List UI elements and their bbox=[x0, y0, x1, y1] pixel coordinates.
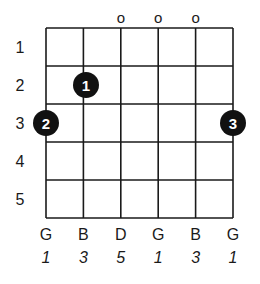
fingering-number: 3 bbox=[191, 249, 200, 266]
string-names: G B D G B G bbox=[40, 226, 239, 243]
chord-diagram: o o o 1 2 3 4 5 1 2 3 G B D G B G 1 bbox=[0, 0, 260, 284]
svg-text:1: 1 bbox=[82, 77, 90, 94]
finger-dot: 2 bbox=[33, 110, 59, 136]
string-name: G bbox=[40, 226, 52, 243]
string-name: D bbox=[115, 226, 127, 243]
finger-dot: 1 bbox=[73, 72, 99, 98]
svg-text:3: 3 bbox=[229, 115, 237, 132]
fingering-number: 5 bbox=[116, 249, 125, 266]
fret-number: 3 bbox=[16, 115, 25, 132]
open-string-marker: o bbox=[191, 9, 199, 26]
string-name: B bbox=[190, 226, 201, 243]
fret-numbers: 1 2 3 4 5 bbox=[16, 39, 25, 208]
fret-number: 5 bbox=[16, 191, 25, 208]
fret-number: 1 bbox=[16, 39, 25, 56]
fret-number: 2 bbox=[16, 77, 25, 94]
fingering-numbers: 1 3 5 1 3 1 bbox=[42, 249, 238, 266]
string-name: G bbox=[152, 226, 164, 243]
string-name: G bbox=[227, 226, 239, 243]
svg-text:2: 2 bbox=[42, 115, 50, 132]
open-string-markers: o o o bbox=[117, 9, 200, 26]
fretboard-grid bbox=[46, 28, 233, 218]
fingering-number: 1 bbox=[154, 249, 163, 266]
fret-number: 4 bbox=[16, 153, 25, 170]
string-name: B bbox=[78, 226, 89, 243]
fingering-number: 3 bbox=[79, 249, 88, 266]
open-string-marker: o bbox=[154, 9, 162, 26]
finger-dot: 3 bbox=[220, 110, 246, 136]
open-string-marker: o bbox=[117, 9, 125, 26]
fingering-number: 1 bbox=[229, 249, 238, 266]
fingering-number: 1 bbox=[42, 249, 51, 266]
